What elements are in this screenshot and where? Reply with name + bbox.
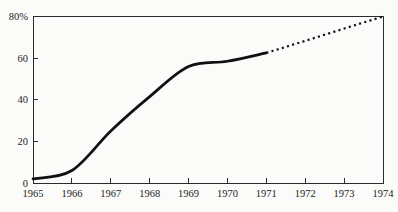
chart-canvas: 020406080%196519661967196819691970197119…	[0, 0, 398, 212]
series-line-actual	[33, 53, 266, 179]
line-chart: 020406080%196519661967196819691970197119…	[0, 0, 398, 212]
x-tick-label: 1968	[139, 188, 160, 199]
y-tick-label: 40	[18, 94, 29, 105]
x-tick-label: 1974	[373, 188, 395, 199]
x-tick-label: 1973	[334, 188, 355, 199]
x-tick-label: 1970	[217, 188, 238, 199]
x-tick-label: 1967	[100, 188, 121, 199]
x-tick-label: 1971	[256, 188, 277, 199]
y-tick-label: 20	[18, 136, 29, 147]
x-tick-label: 1965	[23, 188, 44, 199]
series-line-projected	[266, 17, 383, 53]
x-tick-label: 1966	[61, 188, 82, 199]
y-tick-label: 80%	[9, 11, 29, 22]
y-tick-label: 0	[23, 178, 28, 189]
x-tick-label: 1969	[178, 188, 199, 199]
y-tick-label: 60	[18, 53, 29, 64]
x-tick-label: 1972	[295, 188, 316, 199]
